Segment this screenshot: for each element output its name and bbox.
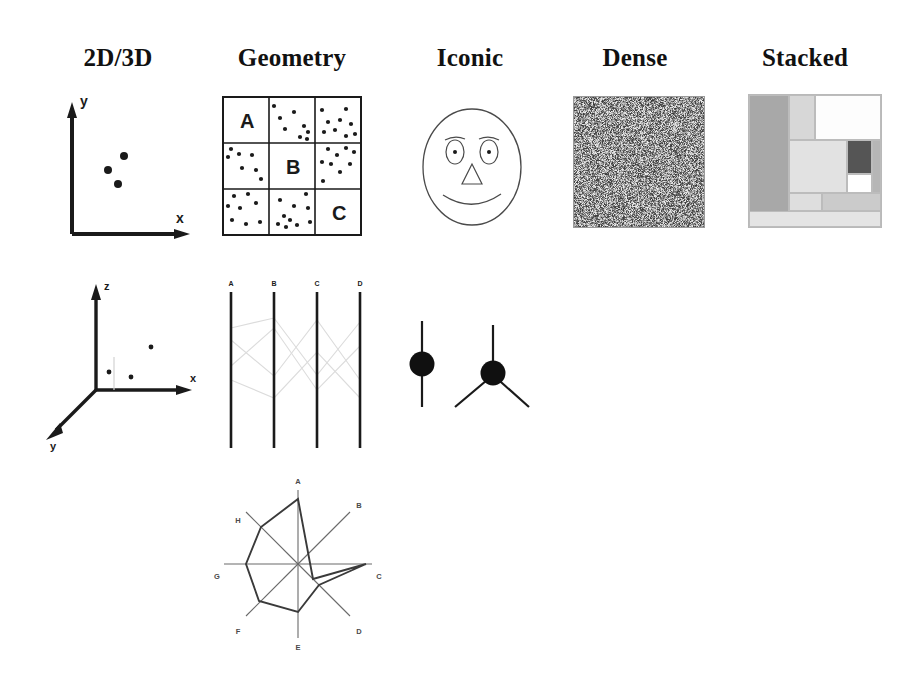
column-header-2d3d: 2D/3D <box>83 44 152 72</box>
z-axis-label: z <box>104 280 110 292</box>
treemap-tile <box>847 140 872 174</box>
treemap-tile <box>749 95 789 227</box>
dense-pixel-noise <box>573 96 705 228</box>
treemap-tile <box>789 95 815 140</box>
star-label-h: H <box>235 516 240 525</box>
face-left-pupil <box>453 150 457 154</box>
z-axis-arrow <box>91 284 101 300</box>
parallel-axis-label-b: B <box>271 280 276 287</box>
treemap-tile <box>789 140 847 193</box>
scatter-2d-svg: y x <box>50 92 200 242</box>
grid-cell-label-c: C <box>332 202 346 224</box>
glyph-node <box>481 361 506 386</box>
treemap-tile <box>847 174 872 192</box>
column-header-dense: Dense <box>603 44 668 72</box>
treemap-tile <box>789 193 822 211</box>
glyph-degree-3 <box>455 325 529 407</box>
panel-2d-scatter: y x <box>50 92 200 242</box>
star-label-c: C <box>376 572 382 581</box>
parallel-axis-label-d: D <box>357 280 362 287</box>
glyph-node <box>410 352 435 377</box>
star-label-f: F <box>236 627 241 636</box>
geometry-grid-svg: A B C <box>222 96 362 236</box>
data-point <box>129 375 134 380</box>
x-axis-label: x <box>190 372 197 384</box>
parallel-axis-label-a: A <box>228 280 233 287</box>
data-point <box>114 180 122 188</box>
column-header-iconic: Iconic <box>437 44 503 72</box>
panel-dense-pixels <box>573 96 705 228</box>
panel-3d-scatter: z x y <box>38 272 213 452</box>
face-right-pupil <box>487 150 491 154</box>
star-label-d: D <box>356 627 362 636</box>
column-header-stacked: Stacked <box>762 44 848 72</box>
y-axis-arrow <box>67 102 77 118</box>
y-axis-label: y <box>50 440 57 452</box>
treemap-container <box>748 94 882 228</box>
grid-cell-label-a: A <box>240 110 254 132</box>
panel-treemap <box>748 94 882 228</box>
chernoff-face-svg <box>412 92 532 242</box>
treemap-tile <box>749 211 881 227</box>
treemap-tile <box>822 193 881 211</box>
star-label-a: A <box>295 477 301 486</box>
node-glyphs-svg <box>398 315 548 425</box>
treemap-tile <box>815 95 881 140</box>
data-point <box>104 166 112 174</box>
panel-geometry-grid: A B C <box>222 96 362 236</box>
panel-parallel-coordinates: A B C D <box>222 280 368 455</box>
star-plot-svg: A B C D E F G H <box>212 478 384 650</box>
x-axis-label: x <box>176 210 184 226</box>
panel-node-glyphs <box>398 315 548 425</box>
treemap-tile <box>872 140 881 193</box>
column-header-geometry: Geometry <box>238 44 347 72</box>
scatter-3d-svg: z x y <box>38 272 213 452</box>
y-axis-arrow <box>46 423 63 440</box>
parallel-axis-label-c: C <box>314 280 319 287</box>
panel-star-plot: A B C D E F G H <box>212 478 384 650</box>
panel-chernoff-face <box>412 92 532 242</box>
x-axis-arrow <box>176 385 192 395</box>
y-axis-label: y <box>80 93 88 109</box>
star-label-g: G <box>214 572 220 581</box>
x-axis-arrow <box>174 229 190 239</box>
grid-cell-label-b: B <box>286 156 300 178</box>
figure-canvas: 2D/3D Geometry Iconic Dense Stacked y x <box>0 0 919 700</box>
parallel-polylines <box>231 318 360 398</box>
star-label-e: E <box>295 643 300 652</box>
data-point <box>149 345 154 350</box>
data-point <box>120 152 128 160</box>
star-label-b: B <box>356 501 362 510</box>
data-point <box>107 370 112 375</box>
parallel-coords-svg: A B C D <box>222 280 368 455</box>
y-axis-line <box>56 390 96 430</box>
glyph-degree-2 <box>410 321 435 407</box>
